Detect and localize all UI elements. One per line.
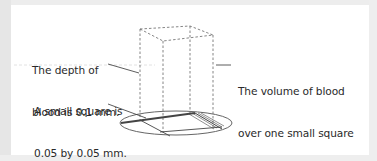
- volume-label-line1: The volume of blood: [238, 84, 354, 98]
- square-label: A small square is 0.05 by 0.05 mm.: [34, 76, 127, 161]
- volume-label-line2: over one small square: [238, 126, 354, 140]
- volume-label: The volume of blood over one small squar…: [238, 56, 354, 161]
- depth-label-line1: The depth of: [32, 63, 119, 77]
- square-label-line1: A small square is: [34, 104, 127, 118]
- square-label-line2: 0.05 by 0.05 mm.: [34, 146, 127, 160]
